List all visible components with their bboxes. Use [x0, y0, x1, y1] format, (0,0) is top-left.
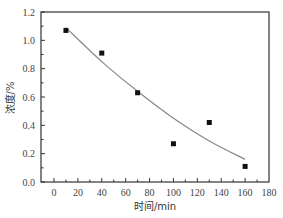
x-tick-label: 180 [262, 187, 277, 198]
data-point-marker [171, 141, 176, 146]
data-point-marker [63, 28, 68, 33]
y-tick-label: 1.0 [23, 35, 36, 46]
x-tick-label: 100 [166, 187, 181, 198]
fit-curve [66, 28, 245, 160]
y-tick-label: 0.0 [23, 177, 36, 188]
y-tick-label: 0.4 [23, 120, 36, 131]
x-tick-label: 0 [52, 187, 57, 198]
data-point-marker [207, 120, 212, 125]
x-tick-label: 120 [190, 187, 205, 198]
y-axis: 0.00.20.40.60.81.01.2 [23, 7, 46, 188]
x-tick-label: 80 [145, 187, 155, 198]
x-axis-title: 时间/min [134, 200, 176, 212]
plot-frame [41, 12, 269, 182]
x-tick-label: 160 [238, 187, 253, 198]
y-tick-label: 1.2 [23, 7, 36, 18]
x-tick-label: 40 [97, 187, 107, 198]
x-tick-label: 140 [214, 187, 229, 198]
data-point-marker [135, 90, 140, 95]
y-tick-label: 0.8 [23, 63, 36, 74]
x-tick-label: 60 [121, 187, 131, 198]
y-tick-label: 0.2 [23, 148, 36, 159]
chart-canvas: 0.00.20.40.60.81.01.2 020406080100120140… [0, 0, 283, 218]
y-axis-title: 浓度/% [4, 82, 16, 115]
data-points [63, 28, 247, 169]
x-axis: 020406080100120140160180 [52, 178, 277, 198]
x-tick-label: 20 [73, 187, 83, 198]
data-point-marker [243, 164, 248, 169]
data-point-marker [99, 51, 104, 56]
y-tick-label: 0.6 [23, 92, 36, 103]
